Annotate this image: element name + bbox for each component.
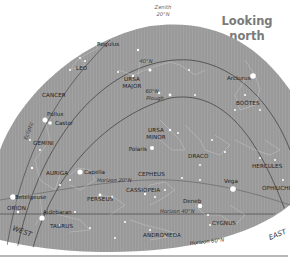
label-plough: Plough [146, 95, 164, 102]
label-leo: LEO [76, 65, 88, 71]
label-cassiopeia: CASSIOPEIA [126, 187, 160, 193]
label-horizon20: Horizon 20°N [97, 177, 132, 183]
star-aldebaran [39, 215, 44, 220]
label-deneb: Deneb [183, 198, 202, 204]
label-gemini: GEMINI [33, 140, 54, 146]
label-cepheus: CEPHEUS [138, 171, 165, 177]
zenith-label-1: Zenith [154, 4, 172, 10]
label-lat60: 60°N [145, 88, 158, 94]
label-ursa-minor-2: MINOR [146, 134, 165, 140]
label-ophiuchus: OPHIUCHUS [262, 185, 290, 191]
label-arcturus: Arcturus [227, 75, 251, 81]
label-taurus: TAURUS [49, 223, 73, 229]
label-bootes: BOÖTES [236, 99, 260, 106]
star-deneb [198, 204, 202, 208]
label-ursa-major-1: URSA [124, 76, 140, 82]
label-auriga: AURIGA [46, 170, 68, 176]
label-castor: Castor [55, 120, 74, 126]
label-ursa-minor-1: URSA [148, 127, 164, 133]
label-orion: ORION [7, 205, 26, 211]
zenith-label-2: 20°N [156, 11, 169, 17]
star-vega [230, 186, 236, 192]
direction-east: EAST [268, 227, 288, 241]
label-ursa-major-2: MAJOR [122, 83, 141, 90]
label-regulus: Regulus [97, 41, 119, 48]
label-hercules: HERCULES [252, 163, 283, 169]
star-regulus [91, 41, 95, 45]
star-castor [48, 121, 52, 125]
label-cygnus: CYGNUS [212, 220, 236, 226]
label-aldebaran: Aldebaran [43, 209, 72, 215]
label-perseus: PERSEUS [87, 196, 114, 202]
label-polaris: Polaris [129, 146, 147, 152]
star-chart: Zenith 20°N Regulus LEO 40°N URSA MAJOR … [0, 0, 290, 261]
label-draco: DRACO [188, 153, 209, 159]
star-capella [77, 169, 82, 174]
star-arcturus [250, 73, 256, 79]
label-pollux: Pollux [47, 111, 64, 117]
label-andromeda: ANDROMEDA [143, 232, 181, 238]
label-horizon40: Horizon 40°N [160, 208, 195, 214]
star-pollux [43, 118, 48, 123]
label-betelgeuse: Betelgeuse [15, 194, 47, 201]
label-vega: Vega [224, 178, 238, 185]
label-capella: Capella [84, 169, 105, 176]
label-lat40: 40°N [139, 58, 152, 64]
label-cancer: CANCER [42, 92, 66, 98]
star-polaris [150, 146, 154, 150]
